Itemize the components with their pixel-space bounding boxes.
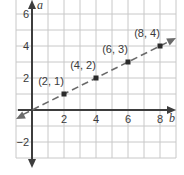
point-label: (2, 1) [38,75,64,87]
y-axis-down-arrow-icon [28,159,36,168]
y-tick-label: −2 [16,136,29,148]
line-arrow-left-icon [16,111,26,119]
x-tick-label: 6 [125,113,131,125]
x-tick-label: 4 [93,113,99,125]
point-label: (6, 3) [102,43,128,55]
y-tick-label: 6 [23,8,29,20]
data-point [62,92,67,97]
point-label: (8, 4) [134,27,160,39]
x-axis-label: b [169,111,175,125]
y-axis-up-arrow-icon [28,0,36,9]
data-point [158,44,163,49]
coordinate-plane: 2468642−2 (2, 1)(4, 2)(6, 3)(8, 4) b a [0,0,184,175]
x-tick-label: 8 [157,113,163,125]
line-arrow-right-icon [166,38,176,46]
y-tick-label: 2 [23,72,29,84]
y-axis-label: a [37,0,43,12]
point-label: (4, 2) [70,59,96,71]
data-point [126,60,131,65]
data-point [94,76,99,81]
x-tick-label: 2 [61,113,67,125]
y-tick-label: 4 [23,40,29,52]
